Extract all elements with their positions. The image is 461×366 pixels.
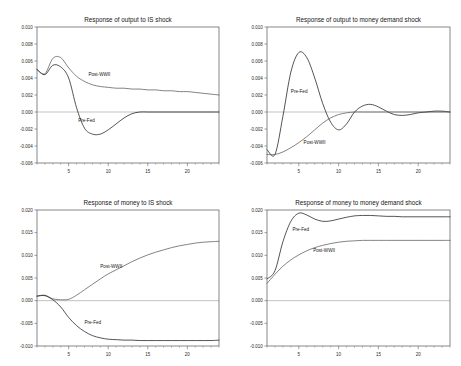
- y-tick-label: -0.010: [20, 344, 33, 349]
- chart-title: Response of money to IS shock: [84, 199, 174, 207]
- y-tick-label: 0.010: [22, 253, 34, 258]
- x-tick-label: 15: [376, 169, 382, 174]
- series-line-pre-fed: [267, 213, 450, 279]
- series-annotation-post-wwii: Post-WWII: [313, 248, 335, 253]
- y-tick-label: 0.006: [22, 59, 34, 64]
- series-line-post-wwii: [37, 241, 219, 300]
- x-tick-label: 10: [336, 169, 342, 174]
- series-annotation-pre-fed: Pre-Fed: [84, 320, 101, 325]
- y-tick-label: -0.004: [20, 144, 33, 149]
- x-tick-label: 10: [106, 169, 112, 174]
- y-tick-label: 0.000: [22, 298, 34, 303]
- series-line-post-wwii: [267, 112, 450, 155]
- figure-grid: Response of output to IS shock0.0100.008…: [0, 0, 461, 366]
- series-annotation-post-wwii: Post-WWII: [304, 140, 326, 145]
- x-tick-label: 15: [376, 352, 382, 357]
- y-tick-label: -0.002: [250, 127, 263, 132]
- y-tick-label: 0.020: [252, 208, 264, 213]
- chart-title: Response of output to money demand shock: [296, 16, 422, 24]
- chart-title: Response of money to money demand shock: [295, 199, 422, 207]
- chart-title: Response of output to IS shock: [84, 16, 172, 24]
- x-tick-label: 15: [145, 169, 151, 174]
- series-line-pre-fed: [267, 52, 450, 157]
- x-tick-label: 5: [67, 352, 70, 357]
- series-annotation-pre-fed: Pre-Fed: [291, 89, 308, 94]
- y-tick-label: 0.010: [252, 25, 264, 30]
- y-tick-label: 0.015: [22, 230, 34, 235]
- y-tick-label: 0.015: [252, 230, 264, 235]
- x-tick-label: 20: [185, 352, 191, 357]
- y-tick-label: 0.004: [22, 76, 34, 81]
- y-tick-label: 0.006: [252, 59, 264, 64]
- y-tick-label: -0.006: [250, 161, 263, 166]
- chart-panel-output-is: Response of output to IS shock0.0100.008…: [0, 0, 230, 183]
- chart-output-is: Response of output to IS shock0.0100.008…: [0, 0, 230, 183]
- x-tick-label: 20: [185, 169, 191, 174]
- y-tick-label: 0.008: [22, 42, 34, 47]
- plot-frame: [267, 27, 450, 163]
- chart-panel-output-money-demand: Response of output to money demand shock…: [230, 0, 461, 183]
- series-line-post-wwii: [267, 240, 450, 283]
- plot-frame: [37, 210, 219, 346]
- x-tick-label: 5: [67, 169, 70, 174]
- x-tick-label: 5: [298, 352, 301, 357]
- y-tick-label: 0.000: [22, 110, 34, 115]
- y-tick-label: 0.010: [22, 25, 34, 30]
- y-tick-label: 0.002: [22, 93, 34, 98]
- series-line-pre-fed: [37, 65, 219, 135]
- series-annotation-pre-fed: Pre-Fed: [292, 227, 309, 232]
- y-tick-label: 0.005: [22, 276, 34, 281]
- y-tick-label: 0.008: [252, 42, 264, 47]
- y-tick-label: 0.005: [252, 276, 264, 281]
- chart-money-money-demand: Response of money to money demand shock0…: [230, 183, 461, 366]
- x-tick-label: 5: [298, 169, 301, 174]
- x-tick-label: 20: [416, 352, 422, 357]
- x-tick-label: 10: [106, 352, 112, 357]
- y-tick-label: -0.005: [20, 321, 33, 326]
- y-tick-label: 0.010: [252, 253, 264, 258]
- chart-panel-money-is: Response of money to IS shock0.0200.0150…: [0, 183, 230, 366]
- series-line-pre-fed: [37, 295, 219, 340]
- series-annotation-pre-fed: Pre-Fed: [78, 118, 95, 123]
- chart-panel-money-money-demand: Response of money to money demand shock0…: [230, 183, 461, 366]
- plot-frame: [37, 27, 219, 163]
- series-annotation-post-wwii: Post-WWII: [88, 72, 110, 77]
- y-tick-label: 0.000: [252, 298, 264, 303]
- y-tick-label: -0.002: [20, 127, 33, 132]
- x-tick-label: 10: [336, 352, 342, 357]
- chart-money-is: Response of money to IS shock0.0200.0150…: [0, 183, 230, 366]
- y-tick-label: 0.004: [252, 76, 264, 81]
- y-tick-label: 0.000: [252, 110, 264, 115]
- y-tick-label: 0.002: [252, 93, 264, 98]
- y-tick-label: -0.006: [20, 161, 33, 166]
- chart-output-money-demand: Response of output to money demand shock…: [230, 0, 461, 183]
- series-annotation-post-wwii: Post-WWII: [100, 264, 122, 269]
- y-tick-label: 0.020: [22, 208, 34, 213]
- y-tick-label: -0.005: [250, 321, 263, 326]
- y-tick-label: -0.004: [250, 144, 263, 149]
- y-tick-label: -0.010: [250, 344, 263, 349]
- series-line-post-wwii: [37, 56, 219, 95]
- x-tick-label: 20: [416, 169, 422, 174]
- x-tick-label: 15: [145, 352, 151, 357]
